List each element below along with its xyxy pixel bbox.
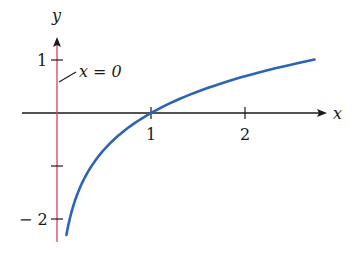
x-tick-label-2: 2 xyxy=(240,125,250,144)
y-tick-label-1: 1 xyxy=(37,51,47,70)
x-tick-label-1: 1 xyxy=(146,125,156,144)
x-axis-label: x xyxy=(333,104,342,123)
asymptote-leader-line xyxy=(59,72,76,82)
ln-curve xyxy=(66,60,314,235)
y-axis-label: y xyxy=(51,6,62,25)
asymptote-label: x = 0 xyxy=(79,62,122,81)
ln-graph: x y 1 2 1 − 2 x = 0 xyxy=(0,0,362,267)
y-tick-label-minus2: − 2 xyxy=(19,210,48,229)
